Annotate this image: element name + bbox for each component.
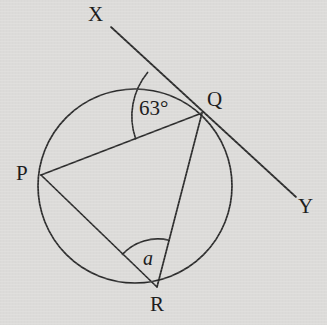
chord-qr <box>157 113 202 287</box>
vertex-label-r: R <box>150 294 164 315</box>
geometry-figure: P Q R X Y 63° a <box>0 0 327 325</box>
angle-label-a: a <box>143 248 153 268</box>
geometry-canvas <box>0 0 327 325</box>
circumscribed-circle <box>38 89 232 283</box>
vertex-label-x: X <box>88 4 103 25</box>
vertex-label-p: P <box>16 163 28 184</box>
chord-pq <box>41 113 202 175</box>
vertex-label-q: Q <box>207 89 222 110</box>
vertex-label-y: Y <box>298 196 313 217</box>
angle-label-63-degrees: 63° <box>139 98 168 119</box>
chord-pr <box>41 175 157 287</box>
